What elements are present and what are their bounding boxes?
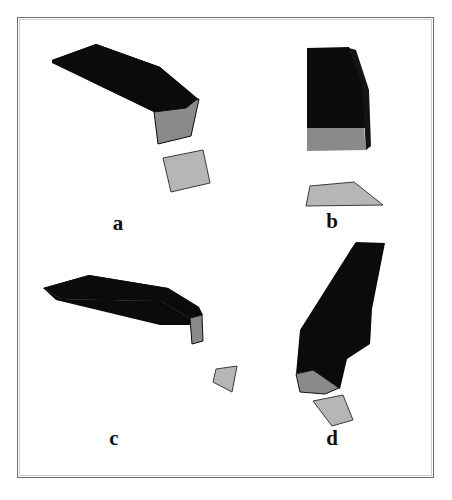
object-c-fragment [213, 366, 237, 392]
object-c [43, 275, 237, 392]
panel-label-c: c [99, 428, 129, 449]
panel-label-a: a [103, 213, 133, 234]
object-b-fragment [306, 182, 383, 206]
shape-rendering-canvas [0, 0, 452, 500]
figure-panel: a b c d [0, 0, 452, 500]
object-d [296, 242, 385, 426]
object-c-bar-end-cap [190, 315, 203, 344]
scan-tail-text [20, 492, 432, 500]
object-d-beam-body [297, 242, 385, 389]
panel-label-b: b [317, 211, 347, 232]
object-b [306, 47, 383, 206]
object-a-fragment [163, 150, 210, 192]
object-d-fragment [313, 395, 353, 426]
object-b-block-front [307, 47, 369, 128]
object-b-block-side-gray [307, 128, 366, 151]
panel-label-d: d [317, 428, 347, 449]
object-a [52, 44, 210, 192]
